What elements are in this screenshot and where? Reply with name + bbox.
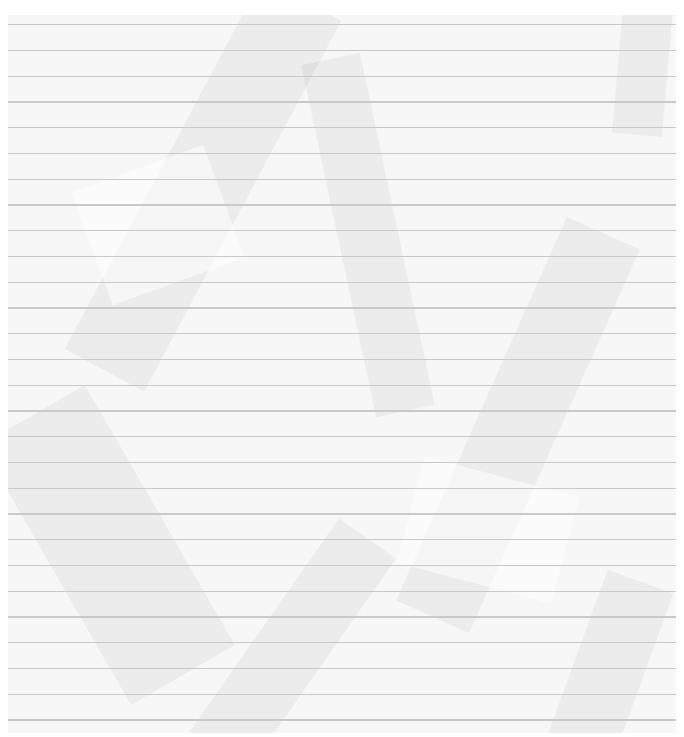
ruled-line — [8, 462, 676, 463]
ruled-line — [8, 359, 676, 360]
ruled-line — [8, 76, 676, 77]
paper-crease — [8, 385, 235, 705]
ruled-line — [8, 101, 676, 102]
ruled-line — [8, 591, 676, 592]
ruled-line — [8, 153, 676, 154]
ruled-line — [8, 307, 676, 308]
ruled-line — [8, 50, 676, 51]
ruled-line — [8, 333, 676, 334]
paper-crease — [190, 518, 396, 733]
paper-crease — [301, 53, 435, 418]
ruled-line — [8, 282, 676, 283]
paper-crease — [532, 570, 673, 733]
ruled-line — [8, 204, 676, 205]
ruled-line — [8, 179, 676, 180]
ruled-line — [8, 230, 676, 231]
ruled-line — [8, 719, 676, 720]
ruled-line — [8, 256, 676, 257]
lined-paper — [8, 15, 676, 733]
ruled-line — [8, 694, 676, 695]
ruled-line — [8, 127, 676, 128]
ruled-line — [8, 565, 676, 566]
ruled-line — [8, 385, 676, 386]
ruled-line — [8, 488, 676, 489]
ruled-line — [8, 668, 676, 669]
ruled-line — [8, 539, 676, 540]
ruled-line — [8, 24, 676, 25]
ruled-line — [8, 436, 676, 437]
canvas — [0, 0, 684, 737]
ruled-line — [8, 616, 676, 617]
ruled-line — [8, 642, 676, 643]
ruled-line — [8, 513, 676, 514]
paper-crease — [396, 217, 640, 633]
ruled-line — [8, 410, 676, 411]
paper-crease — [396, 456, 579, 604]
